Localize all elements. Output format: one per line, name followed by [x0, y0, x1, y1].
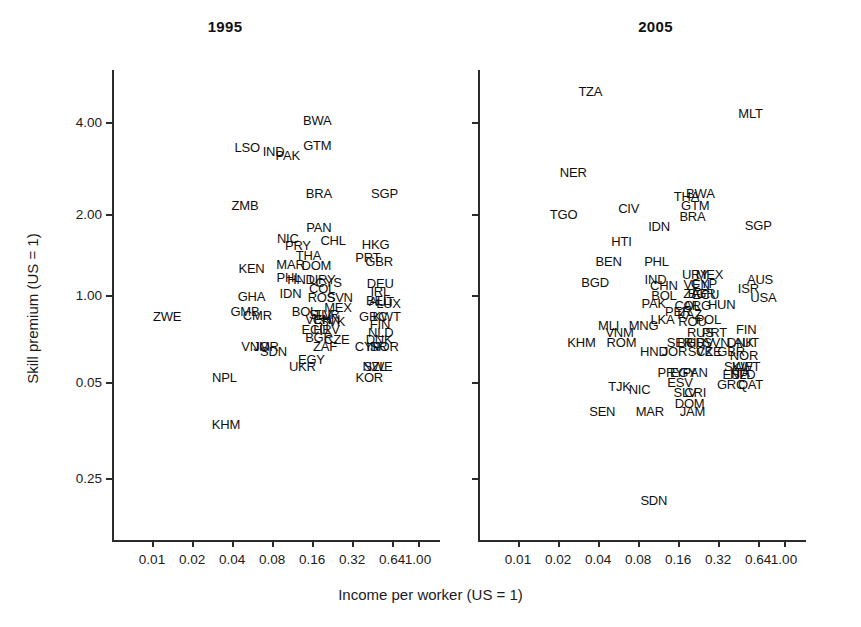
data-point-label: NOR: [370, 339, 398, 352]
x-axis-tick: [192, 541, 194, 547]
data-point-label: SGP: [745, 218, 772, 231]
data-point-label: TZA: [578, 84, 602, 97]
data-point-label: IDN: [648, 219, 670, 232]
data-point-label: DOM: [301, 259, 331, 272]
data-point-label: FIN: [736, 322, 756, 335]
panel-1995: 1995 4.002.001.000.050.250.010.020.040.0…: [0, 0, 450, 627]
y-axis-tick: [106, 382, 112, 384]
data-point-label: PHL: [644, 254, 669, 267]
data-point-label: SGP: [371, 187, 398, 200]
data-point-label: ZWE: [153, 310, 181, 323]
x-axis-tick-label: 0.08: [259, 552, 285, 567]
data-point-label: ZMB: [232, 198, 259, 211]
x-axis-tick: [558, 541, 560, 547]
x-axis-tick: [352, 541, 354, 547]
x-axis-tick-label: 0.04: [585, 552, 611, 567]
panel-2005: 2005 0.010.020.040.080.160.320.641.00TZA…: [450, 0, 861, 627]
data-point-label: HKG: [362, 237, 390, 250]
x-axis-tick: [784, 541, 786, 547]
x-axis-tick: [232, 541, 234, 547]
y-axis-tick-label: 0.25: [50, 471, 102, 486]
data-point-label: NIC: [629, 383, 651, 396]
data-point-label: KOR: [355, 370, 383, 383]
y-axis-tick-label: 1.00: [50, 288, 102, 303]
x-axis-tick-label: 0.01: [505, 552, 531, 567]
data-point-label: KHM: [567, 336, 595, 349]
data-point-label: MAR: [636, 405, 664, 418]
data-point-label: BRA: [679, 209, 705, 222]
data-point-label: TGO: [550, 208, 578, 221]
data-point-label: GHA: [238, 290, 266, 303]
x-axis-tick: [758, 541, 760, 547]
x-axis-tick-label: 0.04: [219, 552, 245, 567]
x-axis-tick: [678, 541, 680, 547]
x-axis-tick-label: 0.02: [179, 552, 205, 567]
data-point-label: PAK: [276, 148, 300, 161]
x-axis-line: [478, 540, 806, 542]
y-axis-tick-label: 2.00: [50, 207, 102, 222]
x-axis-tick-label: 0.16: [665, 552, 691, 567]
x-axis-tick: [418, 541, 420, 547]
data-point-label: UKR: [289, 359, 316, 372]
data-point-label: SDN: [640, 494, 667, 507]
y-axis-tick: [472, 478, 478, 480]
x-axis-tick-label: 0.01: [139, 552, 165, 567]
data-point-label: MLT: [738, 106, 762, 119]
data-point-label: KEN: [238, 262, 264, 275]
data-point-label: LUX: [376, 296, 401, 309]
data-point-label: LSO: [235, 140, 260, 153]
data-point-label: USA: [750, 291, 776, 304]
y-axis-tick-label: 4.00: [50, 115, 102, 130]
x-axis-tick-label: 0.32: [339, 552, 365, 567]
x-axis-tick: [718, 541, 720, 547]
x-axis-tick: [392, 541, 394, 547]
y-axis-tick: [106, 478, 112, 480]
y-axis-tick: [106, 122, 112, 124]
x-axis-tick: [312, 541, 314, 547]
panel-title-2005: 2005: [450, 18, 861, 35]
data-point-label: GBR: [365, 254, 393, 267]
panel-title-1995: 1995: [0, 18, 450, 35]
x-axis-tick-label: 1.00: [771, 552, 797, 567]
data-point-label: KHM: [212, 418, 240, 431]
data-point-label: HTI: [611, 235, 631, 248]
x-axis-tick-label: 0.64: [745, 552, 771, 567]
data-point-label: GTM: [303, 138, 331, 151]
y-axis-tick: [472, 122, 478, 124]
y-axis-line: [478, 70, 480, 540]
y-axis-tick: [472, 214, 478, 216]
data-point-label: TJK: [608, 380, 631, 393]
x-axis-tick-label: 0.64: [379, 552, 405, 567]
data-point-label: NPL: [212, 370, 237, 383]
y-axis-line: [112, 70, 114, 540]
x-axis-label: Income per worker (US = 1): [0, 586, 861, 603]
data-point-label: PAK: [642, 296, 666, 309]
x-axis-tick: [518, 541, 520, 547]
data-point-label: JOR: [662, 345, 687, 358]
x-axis-line: [112, 540, 440, 542]
data-point-label: QAT: [738, 377, 763, 390]
x-axis-tick-label: 0.16: [299, 552, 325, 567]
x-axis-tick-label: 1.00: [405, 552, 431, 567]
x-axis-tick: [598, 541, 600, 547]
x-axis-tick: [152, 541, 154, 547]
data-point-label: NER: [560, 166, 587, 179]
figure-container: 1995 4.002.001.000.050.250.010.020.040.0…: [0, 0, 861, 627]
y-axis-tick-label: 0.05: [50, 375, 102, 390]
y-axis-tick: [472, 295, 478, 297]
data-point-label: BEN: [596, 255, 622, 268]
data-point-label: CIV: [618, 201, 639, 214]
data-point-label: CHL: [320, 233, 345, 246]
data-point-label: SEN: [589, 405, 615, 418]
data-point-label: BRA: [306, 187, 332, 200]
x-axis-tick-label: 0.08: [625, 552, 651, 567]
data-point-label: CMR: [243, 308, 272, 321]
y-axis-tick: [472, 382, 478, 384]
data-point-label: ROM: [607, 336, 637, 349]
y-axis-label: Skill premium (US = 1): [24, 159, 41, 459]
data-point-label: HUN: [708, 297, 736, 310]
data-point-label: BWA: [303, 114, 332, 127]
x-axis-tick: [272, 541, 274, 547]
y-axis-tick: [106, 214, 112, 216]
y-axis-tick: [106, 295, 112, 297]
